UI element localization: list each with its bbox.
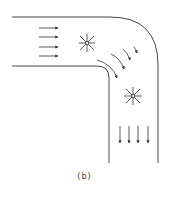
outflow-arrows <box>120 126 148 143</box>
bend-arrows <box>97 47 137 78</box>
inflow-arrows <box>39 28 58 56</box>
vortex-icon <box>79 34 95 52</box>
figure-caption: (b) <box>0 172 169 181</box>
duct-bend-diagram <box>0 0 169 198</box>
outer-wall <box>12 17 158 163</box>
vortex-icon <box>124 87 142 105</box>
inner-wall <box>12 66 109 163</box>
